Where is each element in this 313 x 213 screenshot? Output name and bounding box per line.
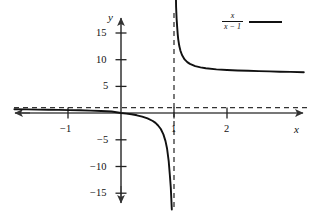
x-tick-label-2: 2 [224,124,229,135]
y-axis-label: y [108,12,113,23]
y-tick-label-minus-5: −5 [97,135,108,146]
legend: x x − 1 [222,12,282,32]
y-tick-label-10: 10 [96,55,107,66]
plot-area [0,0,313,213]
y-tick-label-5: 5 [103,81,108,92]
legend-line-swatch [249,21,282,24]
y-tick-label-minus-10: −10 [90,162,106,173]
x-tick-label-1: 1 [171,124,176,135]
curve-right-branch [176,0,304,72]
legend-fraction: x x − 1 [222,12,243,32]
legend-numerator: x [229,12,237,21]
y-tick-label-15: 15 [96,28,107,39]
x-tick-label-minus-1: −1 [60,124,71,135]
chart-figure: 15 10 5 −5 −10 −15 −1 1 2 y x x x − 1 [0,0,313,213]
y-tick-label-minus-15: −15 [90,188,106,199]
x-axis-label: x [294,124,299,135]
legend-denominator: x − 1 [222,22,243,31]
